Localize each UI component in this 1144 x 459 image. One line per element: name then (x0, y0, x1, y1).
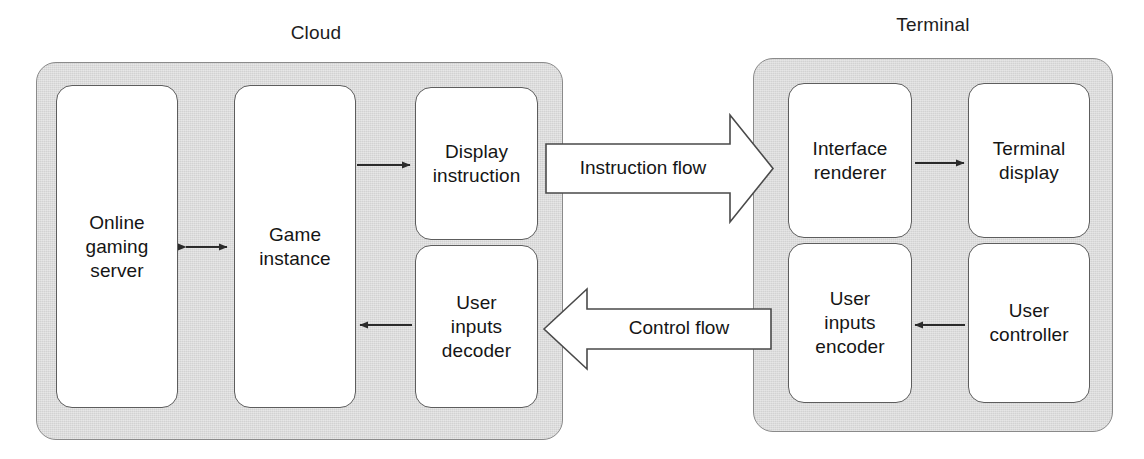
node-user-inputs-encoder[interactable]: Userinputsencoder (788, 243, 912, 403)
node-interface-renderer[interactable]: Interfacerenderer (788, 83, 912, 238)
node-user-inputs-decoder[interactable]: Userinputsdecoder (415, 245, 538, 408)
node-online-gaming-server[interactable]: Onlinegamingserver (56, 85, 178, 408)
control-flow-label: Control flow (593, 317, 765, 339)
node-user-controller-label: Usercontroller (985, 299, 1072, 347)
cloud-group-title: Cloud (236, 22, 396, 44)
node-user-inputs-encoder-label: Userinputsencoder (811, 287, 888, 359)
instruction-flow-arrow: Instruction flow (544, 112, 776, 225)
node-display-instruction-label: Displayinstruction (429, 140, 525, 188)
node-display-instruction[interactable]: Displayinstruction (415, 87, 538, 240)
node-game-instance-label: Gameinstance (255, 223, 335, 271)
terminal-group-title: Terminal (853, 14, 1013, 36)
node-interface-renderer-label: Interfacerenderer (809, 137, 892, 185)
node-user-controller[interactable]: Usercontroller (968, 243, 1090, 403)
node-game-instance[interactable]: Gameinstance (234, 85, 356, 408)
node-terminal-display-label: Terminaldisplay (989, 137, 1070, 185)
instruction-flow-label: Instruction flow (558, 157, 728, 179)
node-user-inputs-decoder-label: Userinputsdecoder (438, 291, 515, 363)
node-terminal-display[interactable]: Terminaldisplay (968, 83, 1090, 238)
diagram-canvas: Cloud Terminal Onlinegamingserver Gamein… (0, 0, 1144, 459)
control-flow-arrow: Control flow (541, 286, 773, 372)
node-online-gaming-server-label: Onlinegamingserver (82, 211, 153, 283)
